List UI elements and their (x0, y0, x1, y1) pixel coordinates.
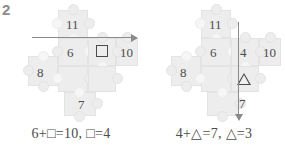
puzzle-blank (38, 51, 49, 62)
puzzle-knob (84, 18, 95, 29)
puzzle-number-middle-right: 10 (120, 46, 133, 59)
puzzle-knob (38, 81, 49, 92)
puzzle-blank (195, 73, 206, 84)
puzzle-knob (255, 73, 266, 84)
puzzle-blank (195, 18, 206, 29)
unknown-square-glyph (96, 45, 108, 57)
puzzle-knob (112, 73, 123, 84)
puzzle-knob (265, 32, 276, 43)
puzzle-blank (217, 87, 228, 98)
number-line-arrow-down (238, 22, 239, 115)
equation-left: 6+□=10, □=4 (0, 126, 142, 142)
puzzle-number-middle-left: 6 (210, 46, 217, 59)
puzzle-knob (23, 65, 34, 76)
puzzle-blank (181, 51, 192, 62)
puzzle-number-bottom: 7 (78, 98, 85, 111)
puzzle-knob (227, 18, 238, 29)
puzzle-knob (92, 98, 103, 109)
puzzle-number-left: 8 (37, 66, 44, 79)
puzzle-number-left: 8 (180, 66, 187, 79)
puzzle-knob (240, 32, 251, 43)
puzzle-knob (166, 65, 177, 76)
arrow-head-icon (131, 34, 138, 42)
puzzle-number-bottom: 7 (239, 97, 246, 110)
worksheet-canvas: 2 (0, 0, 285, 148)
puzzle-blank (52, 18, 63, 29)
puzzle-knob (68, 4, 79, 15)
jigsaw-diagram-right: 11 6 4 10 8 7 (143, 0, 285, 118)
puzzle-knob (211, 4, 222, 15)
puzzle-knob (217, 111, 228, 122)
puzzle-number-middle-center: 4 (240, 46, 247, 59)
arrow-head-icon (235, 114, 243, 121)
puzzle-knob (74, 111, 85, 122)
puzzle-panel-right: 11 6 4 10 8 7 4+△=7, △=3 (143, 0, 285, 148)
puzzle-number-middle-left: 6 (67, 46, 74, 59)
equation-right: 4+△=7, △=3 (143, 125, 285, 142)
puzzle-panel-left: 11 6 10 8 7 6+□=10, □=4 (0, 0, 142, 148)
number-line-arrow-right (32, 37, 132, 38)
puzzle-number-top: 11 (66, 18, 79, 31)
puzzle-number-top: 11 (209, 18, 222, 31)
puzzle-number-middle-right: 10 (263, 46, 276, 59)
puzzle-blank (52, 73, 63, 84)
puzzle-knob (181, 81, 192, 92)
jigsaw-diagram-left: 11 6 10 8 7 (0, 0, 142, 118)
